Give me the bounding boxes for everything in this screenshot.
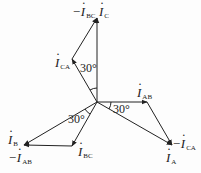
phasor-neg-i-bc [72,18,97,59]
label-neg-i-bc: −IBC [72,5,95,20]
angle-label-a: 30° [113,103,130,115]
angle-label-b: 30° [68,113,85,125]
angle-label-c: 30° [80,62,97,74]
label-neg-i-ca: −ICA [172,137,196,152]
phasor-diagram: −IBC IC ICA IAB −ICA IA IB −IAB IBC 30° … [0,0,201,173]
phasor-i-a [97,102,172,145]
label-i-c: IC [99,5,109,20]
phasor-i-b [24,102,97,145]
label-i-bc: IBC [78,145,93,160]
angle-arc-a [109,102,111,109]
phasor-neg-i-ca [147,102,172,145]
label-i-ca: ICA [55,56,70,71]
label-i-a: IA [166,151,176,166]
phasor-neg-i-ab [24,145,72,146]
angle-arc-c [90,88,97,90]
label-i-b: IB [8,133,18,148]
angle-arc-b [85,109,90,114]
label-neg-i-ab: −IAB [8,151,32,166]
label-i-ab: IAB [137,86,152,101]
